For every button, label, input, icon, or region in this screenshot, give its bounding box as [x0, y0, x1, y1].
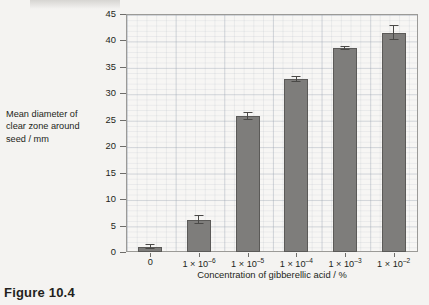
x-axis-tick-mark — [394, 253, 395, 257]
x-axis-tick-label: 1 × 10–5 — [223, 257, 272, 269]
error-bar — [292, 76, 301, 82]
y-axis-tick-label: 0 — [94, 246, 116, 257]
y-axis-title-line-3: seed / mm — [6, 133, 102, 145]
error-bar-stem — [393, 25, 394, 41]
y-axis-tick-mark — [120, 226, 126, 227]
x-axis-tick-label: 1 × 10–6 — [175, 257, 224, 269]
x-axis-tick-label: 0 — [126, 257, 175, 267]
y-axis-tick-mark — [120, 199, 126, 200]
figure-caption: Figure 10.4 — [4, 285, 75, 300]
error-bar-cap-top — [146, 244, 155, 245]
x-axis-tick-label: 1 × 10–4 — [272, 257, 321, 269]
y-axis-tick-label: 15 — [94, 167, 116, 178]
bar — [382, 33, 406, 252]
x-axis-tick-mark — [345, 253, 346, 257]
y-axis-title-line-2: clear zone around — [6, 120, 102, 132]
bar — [333, 48, 357, 252]
y-axis-tick-mark — [120, 120, 126, 121]
y-axis-title: Mean diameter of clear zone around seed … — [6, 108, 102, 145]
y-axis-tick-label: 5 — [94, 220, 116, 231]
bar-group — [126, 14, 175, 252]
y-axis-tick-label: 25 — [94, 114, 116, 125]
error-bar-cap-top — [340, 46, 349, 47]
bar-series — [126, 14, 418, 252]
x-axis-tick-label: 1 × 10–3 — [321, 257, 370, 269]
y-axis-title-line-1: Mean diameter of — [6, 108, 102, 120]
y-axis-tick-label: 40 — [94, 34, 116, 45]
bar-group — [321, 14, 370, 252]
y-axis-tick-mark — [120, 67, 126, 68]
x-axis-tick-label: 1 × 10–2 — [369, 257, 418, 269]
bar-group — [369, 14, 418, 252]
error-bar-cap-top — [243, 112, 252, 113]
error-bar-cap-bottom — [243, 119, 252, 120]
error-bar — [243, 112, 252, 120]
bar-group — [175, 14, 224, 252]
error-bar-cap-top — [292, 76, 301, 77]
error-bar — [194, 215, 203, 225]
y-axis-tick-label: 35 — [94, 61, 116, 72]
error-bar — [146, 244, 155, 249]
y-axis-tick-mark — [120, 14, 126, 15]
error-bar-cap-bottom — [389, 39, 398, 40]
bar — [236, 116, 260, 252]
bar-group — [272, 14, 321, 252]
x-axis-tick-mark — [296, 253, 297, 257]
y-axis-tick-mark — [120, 146, 126, 147]
y-axis-tick-label: 45 — [94, 8, 116, 19]
figure-10-4: Mean diameter of clear zone around seed … — [0, 0, 429, 305]
bar — [284, 79, 308, 252]
y-axis-tick-mark — [120, 93, 126, 94]
error-bar-cap-bottom — [292, 81, 301, 82]
y-axis-tick-mark — [120, 173, 126, 174]
y-axis-tick-mark — [120, 40, 126, 41]
bar-group — [223, 14, 272, 252]
error-bar — [340, 46, 349, 50]
x-axis-tick-mark — [199, 253, 200, 257]
y-axis-tick-label: 30 — [94, 87, 116, 98]
error-bar — [389, 25, 398, 41]
error-bar-cap-bottom — [146, 248, 155, 249]
error-bar-cap-top — [194, 215, 203, 216]
x-axis-tick-mark — [248, 253, 249, 257]
x-axis-tick-mark — [150, 253, 151, 257]
error-bar-cap-bottom — [340, 49, 349, 50]
error-bar-cap-top — [389, 25, 398, 26]
y-axis-tick-label: 20 — [94, 140, 116, 151]
x-axis-title: Concentration of gibberellic acid / % — [126, 269, 418, 280]
error-bar-cap-bottom — [194, 223, 203, 224]
bar — [187, 220, 211, 252]
y-axis-tick-label: 10 — [94, 193, 116, 204]
y-axis-tick-mark — [120, 252, 126, 253]
